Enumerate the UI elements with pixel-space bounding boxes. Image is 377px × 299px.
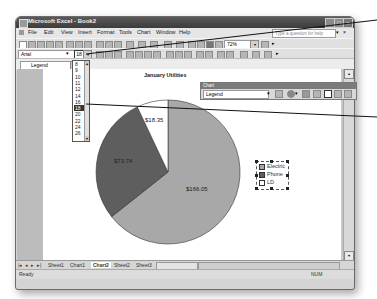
callout-line-size-18 [86,104,377,117]
callout-line-font-size [86,20,377,54]
callout-lines [0,0,377,299]
